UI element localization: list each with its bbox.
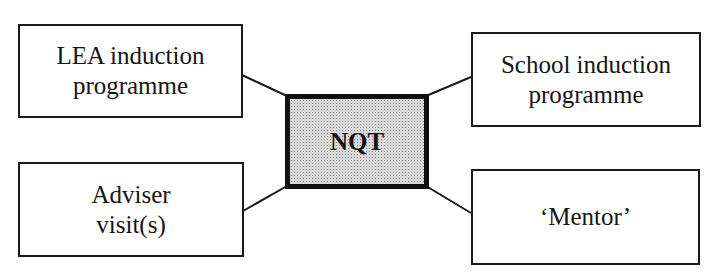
node-school-induction: School induction programme [471, 32, 701, 127]
node-lea-induction: LEA induction programme [18, 24, 243, 118]
edge-lea-to-nqt [242, 75, 287, 96]
node-label: ‘Mentor’ [540, 202, 631, 232]
node-label: Adviser visit(s) [91, 180, 170, 240]
node-mentor: ‘Mentor’ [471, 169, 700, 265]
center-label: NQT [330, 127, 384, 157]
node-label: LEA induction programme [57, 41, 205, 101]
node-label: School induction programme [501, 50, 671, 110]
node-adviser-visits: Adviser visit(s) [18, 162, 244, 257]
edge-school-to-nqt [426, 77, 471, 96]
edge-adviser-to-nqt [243, 186, 287, 211]
diagram-canvas: LEA induction programme School induction… [0, 0, 716, 279]
node-nqt-center: NQT [285, 94, 429, 189]
edge-mentor-to-nqt [426, 186, 471, 213]
